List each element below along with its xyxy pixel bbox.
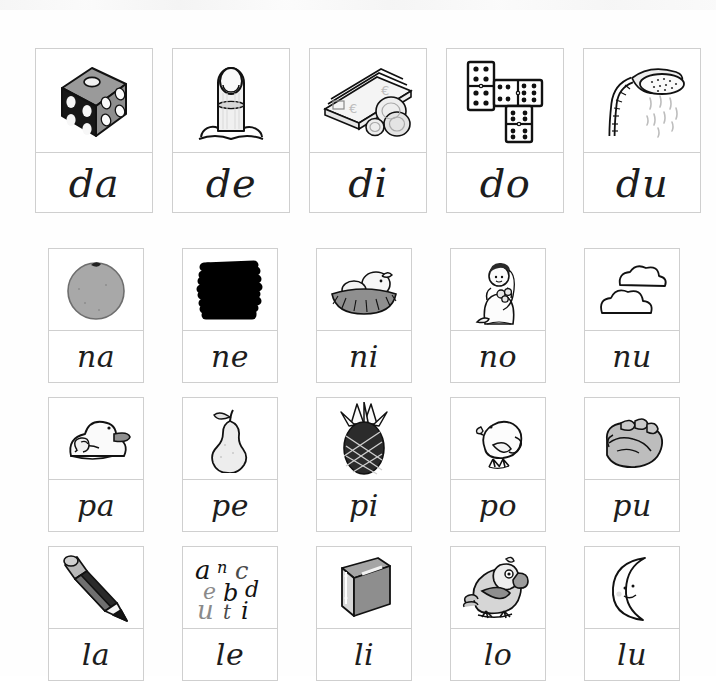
svg-text:€: € xyxy=(381,83,389,98)
card-row-d: da xyxy=(35,48,701,213)
syllable-text: do xyxy=(447,153,563,212)
syllable-text: nu xyxy=(585,331,679,382)
syllable-card-no[interactable]: no xyxy=(450,248,546,383)
syllable-card-pe[interactable]: pe xyxy=(182,397,278,532)
syllable-card-la[interactable]: la xyxy=(48,546,144,681)
svg-text:u: u xyxy=(197,595,214,621)
pencil-icon xyxy=(49,547,143,629)
svg-text:t: t xyxy=(223,600,232,621)
finger-icon xyxy=(173,49,289,153)
book-icon xyxy=(317,547,411,629)
syllable-text: na xyxy=(49,331,143,382)
syllable-text: di xyxy=(310,153,426,212)
nest-icon xyxy=(317,249,411,331)
pear-icon xyxy=(183,398,277,480)
dominoes-icon xyxy=(447,49,563,153)
dice-icon xyxy=(36,49,152,153)
bride-icon xyxy=(451,249,545,331)
syllable-card-lo[interactable]: lo xyxy=(450,546,546,681)
syllable-card-do[interactable]: do xyxy=(446,48,564,213)
chick-icon xyxy=(451,398,545,480)
syllable-text: li xyxy=(317,629,411,680)
syllable-text: da xyxy=(36,153,152,212)
duck-icon xyxy=(49,398,143,480)
syllable-card-pa[interactable]: pa xyxy=(48,397,144,532)
card-row-p: pa pe xyxy=(48,397,680,532)
syllable-card-ni[interactable]: ni xyxy=(316,248,412,383)
fist-icon xyxy=(585,398,679,480)
syllable-text: pa xyxy=(49,480,143,531)
letters-icon: a n c e b d u t i xyxy=(183,547,277,629)
syllable-text: du xyxy=(584,153,700,212)
moon-icon xyxy=(585,547,679,629)
syllable-text: de xyxy=(173,153,289,212)
parrot-icon xyxy=(451,547,545,629)
svg-text:i: i xyxy=(241,597,249,621)
svg-text:n: n xyxy=(217,558,227,577)
syllable-text: la xyxy=(49,629,143,680)
syllable-card-na[interactable]: na xyxy=(48,248,144,383)
clouds-icon xyxy=(585,249,679,331)
pineapple-icon xyxy=(317,398,411,480)
syllable-card-da[interactable]: da xyxy=(35,48,153,213)
syllable-text: pu xyxy=(585,480,679,531)
black-scribble-icon xyxy=(183,249,277,331)
syllable-text: pi xyxy=(317,480,411,531)
syllable-card-di[interactable]: € € di xyxy=(309,48,427,213)
syllable-text: ne xyxy=(183,331,277,382)
shower-icon xyxy=(584,49,700,153)
card-row-n: na ne xyxy=(48,248,680,383)
syllable-card-pu[interactable]: pu xyxy=(584,397,680,532)
syllable-card-li[interactable]: li xyxy=(316,546,412,681)
syllable-text: po xyxy=(451,480,545,531)
syllable-text: no xyxy=(451,331,545,382)
syllable-text: pe xyxy=(183,480,277,531)
card-row-l: la a n c e b d u t i xyxy=(48,546,680,681)
syllable-text: lo xyxy=(451,629,545,680)
syllable-text: ni xyxy=(317,331,411,382)
orange-icon xyxy=(49,249,143,331)
scan-noise-band xyxy=(0,0,716,10)
syllable-text: lu xyxy=(585,629,679,680)
syllable-text: le xyxy=(183,629,277,680)
syllable-card-ne[interactable]: ne xyxy=(182,248,278,383)
syllable-card-le[interactable]: a n c e b d u t i le xyxy=(182,546,278,681)
syllable-card-lu[interactable]: lu xyxy=(584,546,680,681)
syllable-card-de[interactable]: de xyxy=(172,48,290,213)
syllable-card-po[interactable]: po xyxy=(450,397,546,532)
money-icon: € € xyxy=(310,49,426,153)
svg-text:€: € xyxy=(349,101,357,116)
syllable-card-pi[interactable]: pi xyxy=(316,397,412,532)
syllable-card-du[interactable]: du xyxy=(583,48,701,213)
syllable-card-nu[interactable]: nu xyxy=(584,248,680,383)
